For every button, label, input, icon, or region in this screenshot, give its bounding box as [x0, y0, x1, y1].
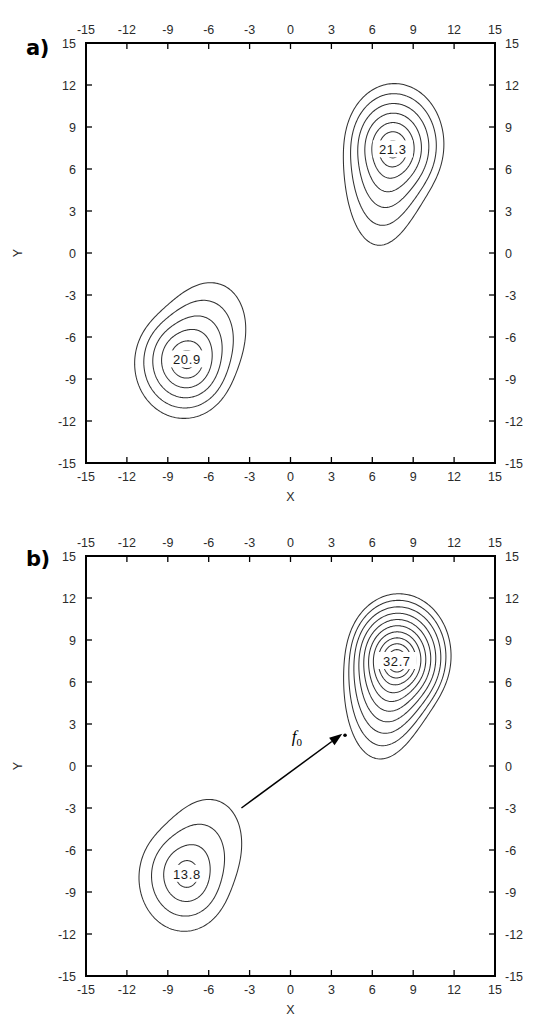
x-tick-label-bottom: -6 [203, 470, 214, 484]
x-tick-label-top: 15 [488, 536, 502, 550]
y-tick-label-left: -15 [58, 970, 76, 984]
y-tick-label-right: 12 [505, 79, 519, 93]
annotation-arrow-line [241, 742, 331, 808]
x-tick-label-bottom: -12 [118, 983, 136, 997]
x-tick-label-bottom: 12 [447, 470, 461, 484]
x-tick-label-bottom: -12 [118, 470, 136, 484]
dot-marker [343, 733, 347, 737]
y-tick-label-left: -6 [65, 844, 76, 858]
y-tick-label-left: 3 [69, 205, 76, 219]
y-tick-label-right: 15 [505, 37, 519, 51]
y-tick-label-left: 12 [62, 79, 76, 93]
x-tick-label-bottom: 3 [328, 470, 335, 484]
y-tick-label-left: -12 [58, 415, 76, 429]
y-tick-label-right: 3 [505, 205, 512, 219]
x-tick-label-top: 0 [287, 536, 294, 550]
contour-figure: a) -15-15-12-12-9-9-6-6-3-30033669912121… [0, 0, 560, 1026]
x-tick-label-top: 3 [328, 536, 335, 550]
x-tick-label-top: 12 [447, 536, 461, 550]
y-tick-label-left: -9 [65, 886, 76, 900]
x-tick-label-bottom: -6 [203, 983, 214, 997]
y-tick-label-right: -3 [505, 802, 516, 816]
contour-label: 21.3 [379, 142, 407, 157]
x-tick-label-top: 9 [410, 23, 417, 37]
x-tick-label-bottom: -3 [244, 470, 255, 484]
x-tick-label-top: 6 [369, 23, 376, 37]
x-tick-label-top: -15 [77, 536, 95, 550]
y-tick-label-right: 6 [505, 163, 512, 177]
y-tick-label-right: 9 [505, 121, 512, 135]
contour-label: 32.7 [383, 654, 411, 669]
x-tick-label-bottom: -15 [77, 983, 95, 997]
x-tick-label-bottom: 15 [488, 470, 502, 484]
x-tick-label-bottom: 0 [287, 470, 294, 484]
x-tick-label-top: 3 [328, 23, 335, 37]
x-tick-label-bottom: 12 [447, 983, 461, 997]
x-tick-label-top: -6 [203, 23, 214, 37]
x-tick-label-top: -9 [162, 23, 173, 37]
y-axis-title: Y [11, 761, 25, 770]
panel-b-plot: -15-15-12-12-9-9-6-6-3-30033669912121515… [0, 513, 560, 1026]
contour-line [349, 600, 446, 745]
y-tick-label-right: -9 [505, 373, 516, 387]
y-tick-label-right: -12 [505, 928, 523, 942]
y-tick-label-right: -6 [505, 844, 516, 858]
y-tick-label-left: -3 [65, 289, 76, 303]
y-tick-label-left: 12 [62, 592, 76, 606]
y-tick-label-left: 0 [69, 760, 76, 774]
y-tick-label-left: 3 [69, 718, 76, 732]
y-tick-label-right: -3 [505, 289, 516, 303]
y-axis-title: Y [11, 248, 25, 257]
y-tick-label-left: 9 [69, 121, 76, 135]
panel-a-plot: -15-15-12-12-9-9-6-6-3-30033669912121515… [0, 0, 560, 513]
x-tick-label-top: 12 [447, 23, 461, 37]
y-tick-label-right: 6 [505, 676, 512, 690]
panel-a: a) -15-15-12-12-9-9-6-6-3-30033669912121… [0, 0, 560, 513]
y-tick-label-left: -15 [58, 457, 76, 471]
x-tick-label-bottom: 0 [287, 983, 294, 997]
x-axis-title: X [286, 1003, 295, 1017]
x-tick-label-bottom: 9 [410, 983, 417, 997]
y-tick-label-right: 12 [505, 592, 519, 606]
x-tick-label-top: -12 [118, 23, 136, 37]
y-tick-label-left: 0 [69, 247, 76, 261]
y-tick-label-left: -9 [65, 373, 76, 387]
x-tick-label-top: 0 [287, 23, 294, 37]
x-tick-label-top: -15 [77, 23, 95, 37]
x-tick-label-bottom: -15 [77, 470, 95, 484]
x-tick-label-top: -12 [118, 536, 136, 550]
y-tick-label-right: -15 [505, 970, 523, 984]
x-axis-title: X [286, 490, 295, 504]
y-tick-label-left: -6 [65, 331, 76, 345]
y-tick-label-left: -3 [65, 802, 76, 816]
contour-label: 13.8 [173, 867, 201, 882]
y-tick-label-left: 6 [69, 676, 76, 690]
contour-peak [343, 84, 444, 246]
x-tick-label-top: 15 [488, 23, 502, 37]
x-tick-label-top: -3 [244, 23, 255, 37]
x-tick-label-bottom: 15 [488, 983, 502, 997]
x-tick-label-bottom: 9 [410, 470, 417, 484]
y-tick-label-left: 15 [62, 37, 76, 51]
x-tick-label-top: 9 [410, 536, 417, 550]
y-tick-label-right: -6 [505, 331, 516, 345]
y-tick-label-left: 15 [62, 550, 76, 564]
y-tick-label-right: -9 [505, 886, 516, 900]
x-tick-label-bottom: -3 [244, 983, 255, 997]
contour-label: 20.9 [173, 352, 201, 367]
y-tick-label-right: 3 [505, 718, 512, 732]
f0-subscript: 0 [297, 736, 303, 748]
contour-peak [344, 594, 451, 759]
x-tick-label-top: -9 [162, 536, 173, 550]
y-tick-label-left: 6 [69, 163, 76, 177]
y-tick-label-right: 15 [505, 550, 519, 564]
y-tick-label-right: 0 [505, 760, 512, 774]
x-tick-label-top: -3 [244, 536, 255, 550]
annotation-arrow-head [329, 734, 342, 745]
y-tick-label-right: 0 [505, 247, 512, 261]
panel-b: b) -15-15-12-12-9-9-6-6-3-30033669912121… [0, 513, 560, 1026]
x-tick-label-top: 6 [369, 536, 376, 550]
y-tick-label-left: -12 [58, 928, 76, 942]
y-tick-label-right: -15 [505, 457, 523, 471]
f0-annotation-label: f0 [292, 727, 303, 748]
